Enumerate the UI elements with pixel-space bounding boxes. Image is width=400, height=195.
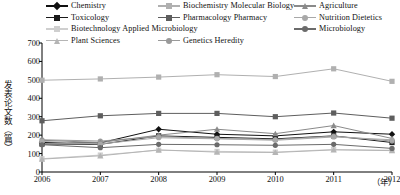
data-point-marker (273, 114, 278, 119)
data-point-marker (39, 78, 44, 83)
data-point-marker (155, 126, 161, 132)
data-point-marker (331, 142, 336, 147)
x-tick-label: 2006 (34, 175, 51, 184)
data-point-marker (156, 135, 161, 140)
data-point-marker (389, 79, 394, 84)
x-tick-label: 2011 (325, 175, 341, 184)
data-point-marker (39, 142, 44, 147)
x-tick-label: 2009 (209, 175, 226, 184)
data-point-marker (389, 116, 394, 121)
x-axis-unit-label: （年） (372, 175, 396, 187)
series-biochemistry-molecular-biology (39, 66, 394, 84)
data-point-marker (331, 110, 336, 115)
series-pharmacology-pharmacy (39, 110, 394, 123)
data-point-marker (156, 74, 161, 79)
x-tick-label: 2008 (150, 175, 167, 184)
data-point-marker (331, 66, 336, 71)
data-point-marker (389, 137, 394, 142)
data-point-marker (273, 138, 278, 143)
x-tick-label: 2007 (92, 175, 109, 184)
data-point-marker (39, 118, 44, 123)
data-point-marker (273, 74, 278, 79)
data-point-marker (98, 76, 103, 81)
data-point-marker (156, 142, 161, 147)
data-point-marker (214, 136, 219, 141)
series-plant-sciences (39, 147, 395, 162)
x-tick-label: 2010 (267, 175, 284, 184)
data-point-marker (98, 113, 103, 118)
data-point-marker (214, 72, 219, 77)
data-point-marker (98, 145, 103, 150)
series-layer (39, 66, 395, 162)
data-point-marker (214, 111, 219, 116)
x-axis-tick-labels: 2006200720082009201020112012 (40, 175, 398, 191)
data-point-marker (214, 142, 219, 147)
data-point-marker (156, 111, 161, 116)
data-point-marker (273, 143, 278, 148)
data-point-marker (331, 134, 336, 139)
data-point-marker (389, 146, 394, 151)
